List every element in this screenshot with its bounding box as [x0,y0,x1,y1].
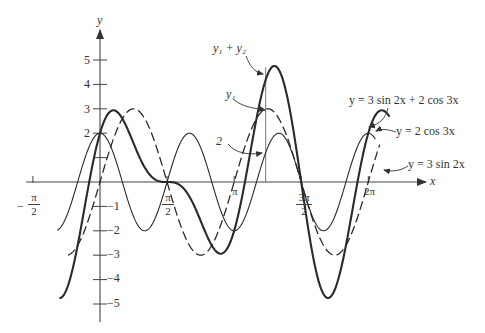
y-tick-neg3: −3 [107,248,120,260]
annotation-sin-equation: y = 3 sin 2x [408,158,465,170]
x-tick-2pi: 2π [364,186,375,197]
annotation-y1: y₁ [226,88,236,100]
annotation-sum-equation: y = 3 sin 2x + 2 cos 3x [349,94,459,106]
x-tick-pi: π [232,186,238,197]
annotation-arrow-sin-eq [384,166,408,171]
y-tick-5: 5 [84,54,90,66]
annotation-cos-equation: y = 2 cos 3x [396,125,455,137]
annotation-arrow-cos-eq [376,129,396,132]
y-axis-label: y [97,14,102,26]
x-axis-label: x [430,175,435,187]
annotation-y1-plus-y2: y₁ + y₂ [213,42,246,54]
annotation-y2: 2 [216,135,222,147]
y-tick-2: 2 [84,127,90,139]
y-tick-4: 4 [84,78,90,90]
y-tick-neg4: −4 [107,272,120,284]
x-tick-3pi-over-2: 3π2 [296,192,312,217]
y-tick-neg5: −5 [107,297,120,309]
x-tick-pi-over-2: π2 [162,192,174,217]
x-tick-neg-pi-over-2: π2 [28,192,40,217]
x-tick-neg-pi2-sign: − [17,200,24,212]
annotation-arrow-sum [246,56,263,74]
y-tick-neg1: −1 [107,200,120,212]
y-tick-3: 3 [84,103,90,115]
y-tick-neg2: −2 [107,224,120,236]
